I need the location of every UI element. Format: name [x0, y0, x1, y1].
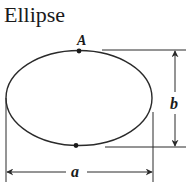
point-a-dot [77, 49, 82, 54]
bottom-point-dot [74, 143, 79, 148]
b-label: b [170, 95, 178, 112]
point-a-label: A [76, 33, 86, 48]
ellipse-diagram: A b a [0, 0, 186, 187]
a-label: a [71, 163, 79, 180]
ellipse-shape [6, 51, 152, 146]
